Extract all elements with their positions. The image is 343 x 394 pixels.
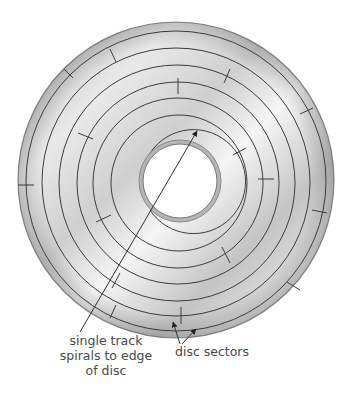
track-label-line-3: of disc bbox=[58, 363, 154, 378]
track-label: single track spirals to edge of disc bbox=[58, 333, 154, 378]
sectors-label: disc sectors bbox=[157, 344, 267, 359]
track-label-line-2: spirals to edge bbox=[58, 348, 154, 363]
disc bbox=[18, 22, 334, 338]
track-label-line-1: single track bbox=[58, 333, 154, 348]
disc-diagram bbox=[0, 0, 343, 394]
disc-hole bbox=[143, 144, 217, 218]
